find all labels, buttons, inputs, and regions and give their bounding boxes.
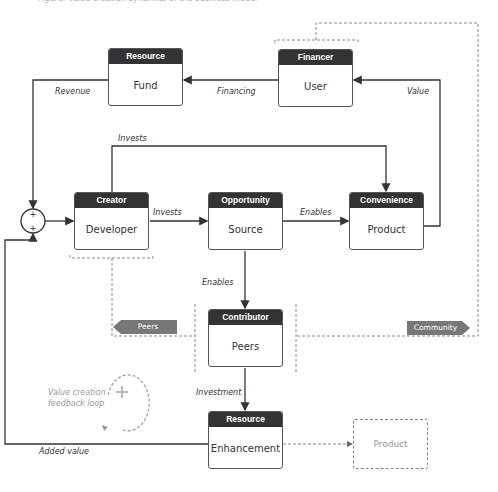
node-role: Financer [279, 50, 352, 65]
node-name: Product [350, 208, 423, 250]
node-role: Resource [109, 49, 182, 64]
node-role: Resource [209, 412, 282, 427]
node-enhancement[interactable]: Resource Enhancement [208, 411, 283, 469]
node-name: Developer [75, 208, 148, 250]
node-source[interactable]: Opportunity Source [208, 192, 283, 250]
node-role: Convenience [350, 193, 423, 208]
node-role: Opportunity [209, 193, 282, 208]
edge-label-enables-right: Enables [300, 208, 331, 217]
node-developer[interactable]: Creator Developer [74, 192, 149, 250]
tag-community: Community [407, 321, 470, 335]
node-fund[interactable]: Resource Fund [108, 48, 183, 106]
node-name: Source [209, 208, 282, 250]
ghost-product-node[interactable]: Product [353, 419, 428, 469]
tag-peers: Peers [113, 320, 177, 334]
edge-label-invests-top: Invests [118, 134, 147, 143]
edge-label-value: Value [407, 87, 429, 96]
node-name: Enhancement [209, 427, 282, 469]
note-line-2: feedback loop [48, 398, 105, 409]
sum-plus-bottom: + [29, 223, 37, 233]
node-product[interactable]: Convenience Product [349, 192, 424, 250]
node-peers[interactable]: Contributor Peers [208, 309, 283, 367]
edge-label-added-value: Added value [39, 447, 89, 456]
sum-plus-top: + [29, 209, 37, 219]
feedback-loop-note: Value creation feedback loop [48, 387, 105, 409]
edge-label-invests: Invests [153, 208, 182, 217]
node-name: Peers [209, 325, 282, 367]
edge-label-investment: Investment [196, 388, 241, 397]
edge-label-financing: Financing [217, 87, 256, 96]
node-name: Fund [109, 64, 182, 106]
node-name: User [279, 65, 352, 107]
node-role: Contributor [209, 310, 282, 325]
node-role: Creator [75, 193, 148, 208]
edge-label-revenue: Revenue [55, 87, 90, 96]
node-user[interactable]: Financer User [278, 49, 353, 107]
note-line-1: Value creation [48, 387, 105, 398]
edge-label-enables-down: Enables [202, 278, 233, 287]
